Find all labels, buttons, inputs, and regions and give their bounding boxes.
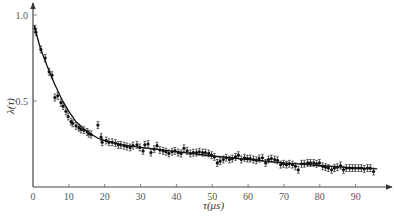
data-point [288, 162, 291, 165]
y-ticks: 0.51.0 [16, 10, 38, 107]
data-point [96, 123, 99, 126]
data-point [100, 136, 103, 139]
data-point [339, 164, 342, 167]
data-point [167, 152, 170, 155]
data-point [59, 101, 62, 104]
data-point [321, 165, 324, 168]
data-point [186, 149, 189, 152]
data-point [231, 157, 234, 160]
data-point [216, 161, 219, 164]
data-point [34, 27, 37, 30]
data-point [279, 163, 282, 166]
data-point [182, 147, 185, 150]
data-point [122, 144, 125, 147]
data-point [330, 168, 333, 171]
x-tick-label: 60 [243, 191, 253, 202]
data-point [222, 158, 225, 161]
data-point [291, 163, 294, 166]
data-point [162, 149, 165, 152]
data-point [273, 158, 276, 161]
data-point [270, 157, 273, 160]
data-point [348, 166, 351, 169]
data-point [324, 166, 327, 169]
data-point [158, 148, 161, 151]
x-tick-label: 10 [64, 191, 74, 202]
data-point [164, 150, 167, 153]
x-tick-label: 90 [351, 191, 361, 202]
data-point [243, 156, 246, 159]
data-point [149, 151, 152, 154]
data-point [101, 141, 104, 144]
data-point [315, 162, 318, 165]
data-point [207, 152, 210, 155]
data-point [372, 170, 375, 173]
data-point [192, 151, 195, 154]
data-point [351, 166, 354, 169]
data-point [360, 166, 363, 169]
data-point [249, 157, 252, 160]
x-tick-label: 70 [279, 191, 289, 202]
data-point [39, 48, 42, 51]
data-point [131, 144, 134, 147]
data-point [213, 155, 216, 158]
data-point [143, 143, 146, 146]
x-tick-label: 20 [100, 191, 110, 202]
data-point [125, 145, 128, 148]
data-point [318, 161, 321, 164]
data-point [354, 166, 357, 169]
data-point [64, 110, 67, 113]
data-point [71, 122, 74, 125]
data-point [225, 156, 228, 159]
data-point [333, 166, 336, 169]
data-point [336, 166, 339, 169]
y-tick-label: 1.0 [16, 10, 29, 21]
data-point [369, 166, 372, 169]
data-point [255, 159, 258, 162]
data-point [267, 158, 270, 161]
data-point [111, 141, 114, 144]
data-point [327, 166, 330, 169]
data-point [107, 141, 110, 144]
data-point [135, 143, 138, 146]
data-point [44, 56, 47, 59]
data-point [366, 166, 369, 169]
data-point [179, 152, 182, 155]
fit-curve [34, 25, 377, 169]
data-point [189, 152, 192, 155]
data-point [294, 165, 297, 168]
data-point [342, 168, 345, 171]
data-points [34, 27, 376, 173]
data-point [114, 142, 117, 145]
data-point [219, 160, 222, 163]
data-point [204, 151, 207, 154]
data-point [155, 144, 158, 147]
data-point [237, 154, 240, 157]
data-point [129, 146, 132, 149]
data-point [300, 162, 303, 165]
data-point [173, 149, 176, 152]
data-point [53, 96, 56, 99]
data-point [48, 70, 51, 73]
data-point [357, 166, 360, 169]
data-point [312, 161, 315, 164]
data-point [309, 161, 312, 164]
data-point [363, 167, 366, 170]
x-tick-label: 0 [31, 191, 36, 202]
data-point [56, 94, 59, 97]
data-point [210, 154, 213, 157]
data-point [201, 151, 204, 154]
data-point [228, 158, 231, 161]
data-point [79, 128, 82, 131]
data-point [276, 159, 279, 162]
data-point [234, 155, 237, 158]
data-point [89, 133, 92, 136]
data-point [153, 148, 156, 151]
data-point [82, 129, 85, 132]
data-point [195, 151, 198, 154]
x-axis-label: τ(μs) [203, 199, 224, 212]
data-point [306, 161, 309, 164]
data-point [34, 31, 37, 34]
data-point [297, 168, 300, 171]
data-point [74, 124, 77, 127]
data-point [345, 166, 348, 169]
